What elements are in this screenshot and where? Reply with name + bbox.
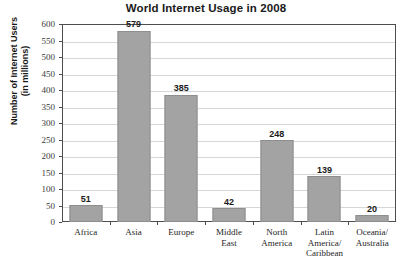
x-tick-label-line: Australia xyxy=(341,238,403,249)
x-tick-mark xyxy=(205,222,206,225)
y-tick-label: 350 xyxy=(0,102,55,112)
x-tick-mark xyxy=(157,222,158,225)
y-tick-mark xyxy=(59,222,62,223)
x-tick-mark xyxy=(301,222,302,225)
bar[interactable] xyxy=(69,205,102,222)
bars-layer: 515793854224813920 xyxy=(62,24,396,222)
y-tick-label: 0 xyxy=(0,217,55,227)
x-tick-label-line: Oceania/ xyxy=(341,227,403,238)
bar-slot: 51 xyxy=(62,24,110,222)
bar[interactable] xyxy=(117,31,150,222)
bar[interactable] xyxy=(260,140,293,222)
y-tick-label: 550 xyxy=(0,36,55,46)
y-tick-label: 500 xyxy=(0,52,55,62)
bar-value-label: 385 xyxy=(174,83,189,93)
bar[interactable] xyxy=(165,95,198,222)
bar-slot: 385 xyxy=(157,24,205,222)
bar-value-label: 248 xyxy=(269,129,284,139)
bar-slot: 42 xyxy=(205,24,253,222)
y-tick-label: 450 xyxy=(0,69,55,79)
bar-value-label: 20 xyxy=(367,204,377,214)
bar[interactable] xyxy=(356,215,389,222)
bar-value-label: 51 xyxy=(81,194,91,204)
bar-value-label: 579 xyxy=(126,19,141,29)
bar-value-label: 42 xyxy=(224,197,234,207)
bar[interactable] xyxy=(212,208,245,222)
y-tick-label: 50 xyxy=(0,201,55,211)
chart-title: World Internet Usage in 2008 xyxy=(0,2,412,14)
x-tick-mark xyxy=(348,222,349,225)
bar-slot: 248 xyxy=(253,24,301,222)
y-tick-label: 300 xyxy=(0,118,55,128)
bar-slot: 139 xyxy=(301,24,349,222)
y-tick-label: 200 xyxy=(0,151,55,161)
x-tick-mark xyxy=(253,222,254,225)
y-tick-label: 600 xyxy=(0,19,55,29)
x-tick-label-line: Caribbean xyxy=(293,248,355,259)
bar-chart: World Internet Usage in 2008 Number of I… xyxy=(0,0,412,268)
x-tick-label: Oceania/Australia xyxy=(341,227,403,248)
bar-value-label: 139 xyxy=(317,165,332,175)
y-tick-label: 100 xyxy=(0,184,55,194)
bar[interactable] xyxy=(308,176,341,222)
bar-slot: 579 xyxy=(110,24,158,222)
y-tick-label: 400 xyxy=(0,85,55,95)
x-tick-mark xyxy=(110,222,111,225)
bar-slot: 20 xyxy=(348,24,396,222)
y-tick-label: 150 xyxy=(0,168,55,178)
y-tick-label: 250 xyxy=(0,135,55,145)
